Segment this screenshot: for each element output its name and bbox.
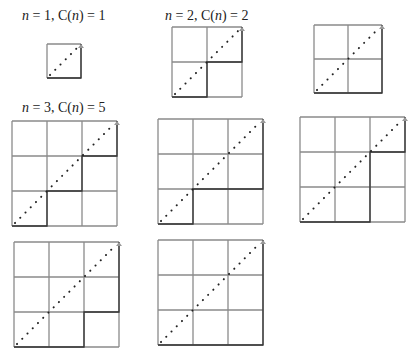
case-label-n3: n = 3, C(n) = 5 bbox=[22, 101, 105, 115]
lattice-grid-n3-path2 bbox=[157, 118, 264, 225]
lattice-grid-n3-path5 bbox=[157, 239, 264, 346]
lattice-grid-n3-path1 bbox=[11, 120, 118, 227]
var-n: n bbox=[22, 8, 29, 23]
catalan-value: 2 bbox=[241, 8, 248, 23]
diagonal-dotted-line bbox=[303, 120, 402, 219]
catalan-value: 1 bbox=[98, 8, 105, 23]
lattice-grid-n2-path2 bbox=[313, 24, 383, 94]
lattice-grid-n3-path3 bbox=[299, 116, 406, 223]
lattice-grid-n2-path1 bbox=[171, 26, 243, 98]
var-n: n bbox=[22, 100, 29, 115]
n-value: 1 bbox=[44, 8, 51, 23]
diagonal-dotted-line bbox=[15, 124, 114, 223]
var-n: n bbox=[72, 100, 79, 115]
var-n: n bbox=[165, 8, 172, 23]
catalan-value: 5 bbox=[98, 100, 105, 115]
diagonal-dotted-line bbox=[161, 122, 260, 221]
lattice-path bbox=[158, 240, 263, 345]
lattice-path bbox=[14, 242, 119, 347]
case-label-n2: n = 2, C(n) = 2 bbox=[165, 9, 248, 23]
lattice-grid-n1-path1 bbox=[46, 43, 82, 79]
var-n: n bbox=[215, 8, 222, 23]
case-label-n1: n = 1, C(n) = 1 bbox=[22, 9, 105, 23]
diagonal-dotted-line bbox=[161, 243, 260, 342]
n-value: 2 bbox=[187, 8, 194, 23]
var-n: n bbox=[72, 8, 79, 23]
lattice-path bbox=[300, 117, 405, 222]
diagonal-dotted-line bbox=[50, 47, 78, 75]
diagonal-dotted-line bbox=[17, 245, 116, 344]
lattice-path bbox=[158, 119, 263, 224]
n-value: 3 bbox=[44, 100, 51, 115]
lattice-grid-n3-path4 bbox=[13, 241, 120, 348]
lattice-path bbox=[12, 121, 117, 226]
